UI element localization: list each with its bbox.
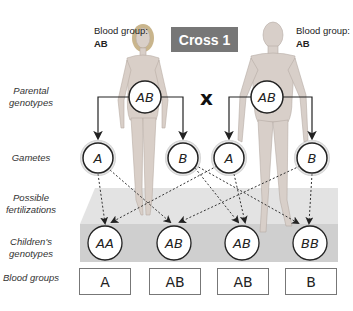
row-label-childrens-genotypes: Children's genotypes [0, 236, 62, 260]
child-blood-group-box: A [79, 268, 131, 295]
caption-value: AB [94, 38, 108, 49]
female-blood-group-caption: Blood group: AB [94, 24, 154, 50]
svg-text:BB: BB [301, 236, 319, 251]
child-genotype-circle: AB [157, 226, 191, 260]
child-genotype-circle: BB [293, 226, 327, 260]
cross-symbol: x [200, 86, 213, 110]
gamete-circle: B [294, 140, 330, 176]
child-blood-group-box: AB [149, 268, 201, 295]
gamete-circle: B [165, 140, 201, 176]
svg-text:A: A [93, 151, 103, 166]
parent-genotype-female: AB [129, 81, 161, 113]
svg-text:AB: AB [232, 236, 251, 251]
parent-genotype-label: AB [257, 90, 276, 105]
parent-genotype-label: AB [135, 90, 154, 105]
parent-genotype-male: AB [251, 81, 283, 113]
svg-text:AB: AB [164, 236, 183, 251]
row-label-gametes: Gametes [0, 152, 62, 164]
caption-prefix: Blood group: [296, 25, 350, 36]
male-blood-group-caption: Blood group: AB [296, 24, 353, 50]
caption-prefix: Blood group: [94, 25, 148, 36]
child-blood-group-box: B [285, 268, 337, 295]
row-label-blood-groups: Blood groups [0, 272, 62, 284]
cross-title: Cross 1 [171, 27, 238, 52]
row-label-parental-genotypes: Parental genotypes [0, 85, 62, 109]
child-genotype-circle: AA [88, 226, 122, 260]
gamete-circle: A [211, 140, 247, 176]
child-blood-group-box: AB [217, 268, 269, 295]
svg-text:AA: AA [95, 236, 114, 251]
female-figure [118, 24, 168, 215]
row-label-possible-fertilizations: Possible fertilizations [0, 192, 62, 216]
gamete-circle: A [80, 140, 116, 176]
svg-text:B: B [179, 151, 188, 166]
svg-text:A: A [224, 151, 234, 166]
svg-text:B: B [308, 151, 317, 166]
child-genotype-circle: AB [225, 226, 259, 260]
caption-value: AB [296, 38, 310, 49]
